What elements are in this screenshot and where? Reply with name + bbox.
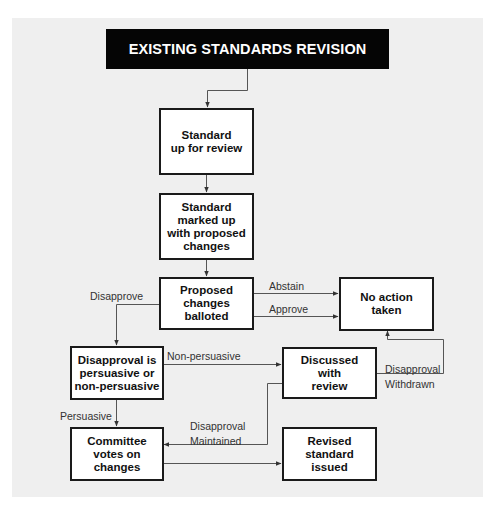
- node-label: Standard up for review: [171, 129, 243, 155]
- edge-label-disapproval-maintained: Disapproval Maintained: [190, 419, 245, 449]
- node-label: Proposed changes balloted: [180, 284, 233, 323]
- node-label: Standard marked up with proposed changes: [167, 201, 246, 253]
- node-standard-up-for-review: Standard up for review: [159, 108, 254, 175]
- node-discussed-with-review: Discussed with review: [282, 347, 377, 399]
- node-label: Revised standard issued: [305, 435, 354, 474]
- clipped-caption: [12, 502, 483, 507]
- node-standard-marked-up: Standard marked up with proposed changes: [159, 193, 254, 260]
- node-proposed-changes-balloted: Proposed changes balloted: [159, 277, 254, 330]
- node-committee-votes: Committee votes on changes: [70, 427, 164, 481]
- edge-label-disapproval-withdrawn: Disapproval Withdrawn: [385, 362, 440, 392]
- node-revised-standard-issued: Revised standard issued: [282, 427, 377, 481]
- node-no-action-taken: No action taken: [339, 277, 434, 331]
- node-label: Discussed with review: [301, 354, 359, 393]
- edge-label-approve: Approve: [269, 303, 308, 315]
- node-label: Committee votes on changes: [87, 435, 146, 474]
- diagram-title: EXISTING STANDARDS REVISION: [106, 29, 389, 69]
- edge-label-persuasive: Persuasive: [60, 410, 112, 422]
- edge-label-non-persuasive: Non-persuasive: [167, 350, 241, 362]
- edge-label-disapprove: Disapprove: [90, 290, 143, 302]
- edge-label-abstain: Abstain: [269, 280, 304, 292]
- node-disapproval-persuasive-question: Disapproval is persuasive or non-persuas…: [70, 346, 164, 400]
- node-label: No action taken: [360, 291, 412, 317]
- node-label: Disapproval is persuasive or non-persuas…: [75, 354, 160, 393]
